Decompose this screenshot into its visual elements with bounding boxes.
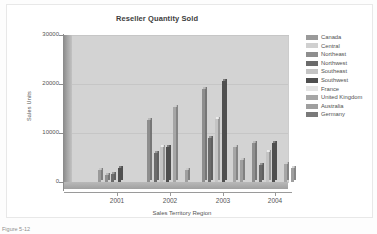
x-axis-tick xyxy=(170,192,171,196)
legend-label: Southeast xyxy=(321,67,347,76)
y-axis-tick xyxy=(59,182,63,183)
bar-top xyxy=(148,118,151,120)
bar[interactable] xyxy=(291,168,294,182)
y-axis-tick-label: 20000 xyxy=(19,80,59,86)
x-axis-line xyxy=(64,192,292,193)
legend-swatch-icon xyxy=(306,35,318,40)
x-axis-tick-label: 2004 xyxy=(262,197,288,204)
bar[interactable] xyxy=(222,81,225,182)
bar-top xyxy=(174,105,177,107)
bar[interactable] xyxy=(233,147,236,182)
bar-top xyxy=(260,163,263,165)
bar[interactable] xyxy=(202,89,205,182)
bar[interactable] xyxy=(98,170,101,182)
bar-side xyxy=(255,141,257,180)
legend-label: Northeast xyxy=(321,50,346,59)
bar-top xyxy=(285,162,288,164)
bar-side xyxy=(176,105,178,180)
bar-side xyxy=(218,117,220,180)
bar-top xyxy=(112,172,115,174)
legend-label: United Kingdom xyxy=(321,93,362,102)
x-axis-tick-label: 2003 xyxy=(210,197,236,204)
bar-top xyxy=(209,136,212,138)
bar-face xyxy=(222,81,225,182)
y-axis-tick xyxy=(59,133,63,134)
bar-face xyxy=(111,174,114,182)
legend-label: France xyxy=(321,85,339,94)
bar-face xyxy=(259,165,262,182)
bar-top xyxy=(267,150,270,152)
bar-face xyxy=(154,153,157,182)
legend-item[interactable]: United Kingdom xyxy=(306,93,377,102)
bar-face xyxy=(147,120,150,182)
bar[interactable] xyxy=(173,107,176,182)
legend-item[interactable]: Central xyxy=(306,42,377,51)
bar-face xyxy=(284,164,287,182)
y-axis-tick-label: 10000 xyxy=(19,129,59,135)
bar[interactable] xyxy=(147,120,150,182)
legend-item[interactable]: Southwest xyxy=(306,76,377,85)
bar[interactable] xyxy=(272,143,275,182)
bar-side xyxy=(262,163,264,180)
bar[interactable] xyxy=(208,138,211,182)
legend-item[interactable]: Southeast xyxy=(306,67,377,76)
legend-item[interactable]: Canada xyxy=(306,33,377,42)
bar-face xyxy=(202,89,205,182)
legend-label: Canada xyxy=(321,33,341,42)
bar[interactable] xyxy=(240,160,243,182)
bar[interactable] xyxy=(259,165,262,182)
bar-side xyxy=(205,87,207,180)
bar-face xyxy=(291,168,294,182)
legend-item[interactable]: Northeast xyxy=(306,50,377,59)
bar-face xyxy=(233,147,236,182)
figure-caption: Figure 5-12 xyxy=(2,226,30,232)
legend-swatch-icon xyxy=(306,69,318,74)
plot-left-wall xyxy=(64,35,72,182)
bar-side xyxy=(211,136,213,180)
bar[interactable] xyxy=(111,174,114,182)
x-axis-tick xyxy=(223,192,224,196)
legend-label: Northwest xyxy=(321,59,347,68)
legend-swatch-icon xyxy=(306,112,318,117)
bar[interactable] xyxy=(118,168,121,182)
bar-top xyxy=(273,141,276,143)
y-axis-tick-label: 0 xyxy=(19,178,59,184)
bar-top xyxy=(161,145,164,147)
bar-top xyxy=(119,166,122,168)
bar-side xyxy=(157,151,159,180)
legend-item[interactable]: Australia xyxy=(306,102,377,111)
bar[interactable] xyxy=(252,143,255,182)
bar-face xyxy=(166,147,169,182)
legend-swatch-icon xyxy=(306,52,318,57)
legend-swatch-icon xyxy=(306,104,318,109)
legend-swatch-icon xyxy=(306,86,318,91)
bar[interactable] xyxy=(266,152,269,182)
bar[interactable] xyxy=(284,164,287,182)
plot-floor xyxy=(64,182,288,189)
bar-side xyxy=(236,145,238,180)
bar-side xyxy=(121,166,123,180)
bar[interactable] xyxy=(185,170,188,182)
bar[interactable] xyxy=(166,147,169,182)
bar-top xyxy=(186,168,189,170)
legend-item[interactable]: France xyxy=(306,85,377,94)
legend-swatch-icon xyxy=(306,78,318,83)
legend-item[interactable]: Germany xyxy=(306,110,377,119)
y-axis-tick-labels: 0100002000030000 xyxy=(15,5,59,234)
chart-screenshot: Reseller Quantity Sold Sales Units 01000… xyxy=(0,0,377,234)
legend-label: Germany xyxy=(321,110,345,119)
bar-top xyxy=(155,151,158,153)
legend-item[interactable]: Northwest xyxy=(306,59,377,68)
bar-face xyxy=(215,119,218,182)
bar-face xyxy=(98,170,101,182)
bar[interactable] xyxy=(154,153,157,182)
legend-swatch-icon xyxy=(306,43,318,48)
chart-frame: Reseller Quantity Sold Sales Units 01000… xyxy=(6,4,373,218)
bar-side xyxy=(225,79,227,180)
bar[interactable] xyxy=(215,119,218,182)
bar-face xyxy=(272,143,275,182)
bar[interactable] xyxy=(160,147,163,182)
bar[interactable] xyxy=(105,175,108,182)
bar-face xyxy=(208,138,211,182)
bar-face xyxy=(160,147,163,182)
